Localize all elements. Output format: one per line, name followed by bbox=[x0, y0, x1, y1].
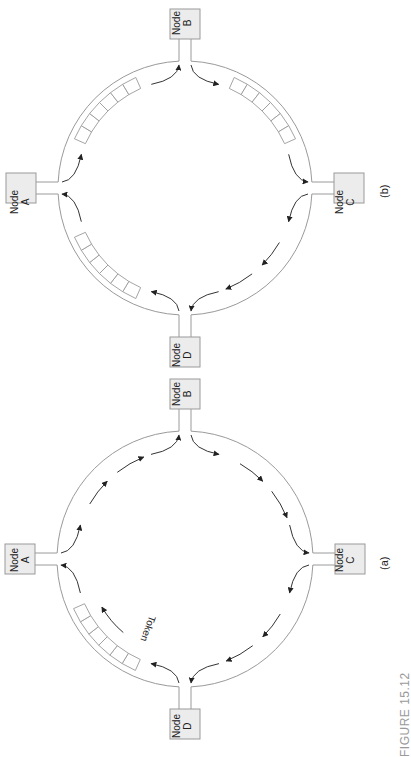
node-name: Node bbox=[171, 379, 182, 409]
arrow-entry bbox=[151, 435, 179, 454]
node-letter: D bbox=[182, 711, 193, 741]
ring-segment bbox=[57, 565, 179, 687]
ring-panel-b bbox=[6, 9, 364, 367]
node-letter: B bbox=[182, 8, 193, 38]
arrow-entry bbox=[61, 565, 80, 593]
ring-segment bbox=[191, 431, 313, 553]
node-b-label-panel-a: Node B bbox=[171, 379, 193, 409]
node-letter: C bbox=[345, 545, 356, 575]
arrow-exit bbox=[289, 194, 308, 222]
arrow-exit bbox=[191, 435, 219, 454]
token-ring-diagram bbox=[0, 0, 411, 757]
figure-caption: FIGURE 15.12 bbox=[398, 672, 411, 757]
node-a-label-panel-b: Node A bbox=[9, 187, 31, 217]
arrow-mid bbox=[240, 464, 263, 481]
node-name: Node bbox=[9, 545, 20, 575]
node-c-label-panel-a: Node C bbox=[334, 545, 356, 575]
arrow-exit bbox=[290, 565, 309, 593]
node-name: Node bbox=[9, 187, 20, 217]
ring-segment bbox=[58, 194, 179, 315]
panel-a-label: (a) bbox=[378, 557, 390, 570]
arrow-mid bbox=[226, 646, 253, 661]
arrow-exit bbox=[61, 525, 80, 553]
arrow-entry bbox=[191, 292, 219, 311]
arrow-mid bbox=[90, 481, 107, 504]
arrow-mid bbox=[226, 274, 252, 289]
node-name: Node bbox=[334, 545, 345, 575]
arrow-entry bbox=[191, 664, 219, 683]
node-name: Node bbox=[171, 340, 182, 370]
node-d-label-panel-b: Node D bbox=[171, 340, 193, 370]
arrow-entry bbox=[289, 154, 308, 182]
node-c-label-panel-b: Node C bbox=[334, 187, 356, 217]
arrow-mid bbox=[262, 243, 279, 266]
node-name: Node bbox=[334, 187, 345, 217]
ring-segment bbox=[191, 565, 313, 687]
node-letter: D bbox=[182, 340, 193, 370]
arrow-mid bbox=[117, 457, 144, 472]
node-letter: A bbox=[20, 187, 31, 217]
panel-b-label: (b) bbox=[378, 185, 390, 198]
ring-segment bbox=[191, 194, 312, 315]
arrow-exit bbox=[151, 664, 179, 683]
arrow-exit bbox=[62, 154, 81, 182]
ring-panel-a bbox=[5, 379, 365, 739]
token-arrow bbox=[102, 607, 123, 633]
arrow-entry bbox=[151, 65, 179, 84]
ring-segment bbox=[58, 61, 179, 182]
node-name: Node bbox=[171, 8, 182, 38]
arrow-mid bbox=[263, 614, 280, 637]
node-name: Node bbox=[171, 711, 182, 741]
flow-arrows bbox=[62, 65, 308, 311]
node-letter: B bbox=[182, 379, 193, 409]
flow-arrows bbox=[61, 435, 309, 683]
node-a-label-panel-a: Node A bbox=[9, 545, 31, 575]
node-letter: C bbox=[345, 187, 356, 217]
ring-segment bbox=[191, 61, 312, 182]
ring-segment bbox=[57, 431, 179, 553]
arrow-entry bbox=[290, 525, 309, 553]
arrow-entry bbox=[62, 194, 81, 222]
arrow-exit bbox=[151, 292, 179, 311]
arrow-exit bbox=[191, 65, 219, 84]
node-b-label-panel-b: Node B bbox=[171, 8, 193, 38]
arrow-mid bbox=[272, 491, 287, 518]
node-letter: A bbox=[20, 545, 31, 575]
node-d-label-panel-a: Node D bbox=[171, 711, 193, 741]
